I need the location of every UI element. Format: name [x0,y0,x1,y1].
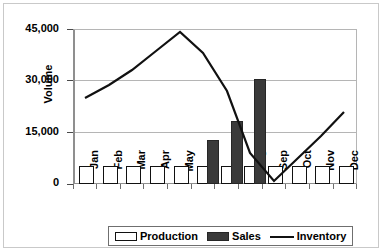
y-tick-label-0: 0 [53,177,59,188]
bar-production-jan [79,166,94,184]
legend-item-inventory[interactable]: Inventory [270,230,347,242]
filled-box-icon [207,232,229,241]
bar-production-sep [268,166,283,184]
hollow-box-icon [115,232,137,241]
bar-production-oct [292,166,307,184]
bar-production-dec [339,166,354,184]
bar-production-mar [126,166,141,184]
line-segment-icon [270,232,294,241]
gridline-30000 [75,80,356,81]
bar-sales-jun [207,140,219,184]
bar-production-apr [150,166,165,184]
bar-sales-aug [254,79,266,184]
legend-label-production: Production [140,230,198,242]
chart-legend: Production Sales Inventory [108,226,353,246]
legend-item-sales[interactable]: Sales [207,230,261,242]
bar-production-feb [103,166,118,184]
y-tick-label-45000: 45,000 [25,23,59,34]
legend-item-production[interactable]: Production [115,230,198,242]
gridline-15000 [75,132,356,133]
bar-production-may [174,166,189,184]
legend-label-sales: Sales [232,230,261,242]
x-tick-mark-0 [73,184,74,189]
y-tick-label-30000: 30,000 [25,74,59,85]
legend-label-inventory: Inventory [297,230,347,242]
y-tick-label-15000: 15,000 [25,126,59,137]
bar-production-nov [315,166,330,184]
bar-sales-jul [231,121,243,184]
chart-frame: Volume 45,000 30,000 15,000 0 Jan Feb Ma… [3,3,379,248]
